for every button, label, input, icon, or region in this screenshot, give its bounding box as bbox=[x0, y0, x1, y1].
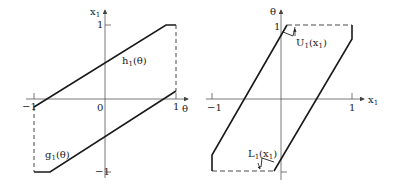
diagram-canvas: x1 1 −1 −1 1 0 θ h1(θ) g1(θ) θ 1 −1 1 x1… bbox=[0, 0, 393, 190]
tick-x-right: 1 bbox=[349, 102, 355, 113]
tick-x-right: 1 bbox=[173, 101, 179, 112]
label-l1: L1(x1) bbox=[248, 148, 277, 161]
tick-y-top: 1 bbox=[274, 21, 280, 32]
tick-y-bottom: −1 bbox=[95, 166, 110, 177]
origin-label: 0 bbox=[97, 102, 103, 113]
x-axis-label: x1 bbox=[368, 94, 378, 107]
x-axis-label: θ bbox=[182, 103, 188, 114]
label-u1: U1(x1) bbox=[296, 37, 327, 50]
y-axis-label: θ bbox=[270, 6, 276, 17]
tick-x-left: −1 bbox=[207, 102, 222, 113]
label-h1: h1(θ) bbox=[122, 55, 147, 68]
right-plot: θ 1 −1 1 x1 U1(x1) L1(x1) bbox=[206, 6, 378, 180]
tick-y-top: 1 bbox=[97, 19, 103, 30]
tick-x-left: −1 bbox=[22, 101, 37, 112]
label-g1: g1(θ) bbox=[45, 149, 70, 162]
y-axis-label: x1 bbox=[90, 6, 100, 19]
left-plot: x1 1 −1 −1 1 0 θ h1(θ) g1(θ) bbox=[22, 6, 188, 178]
